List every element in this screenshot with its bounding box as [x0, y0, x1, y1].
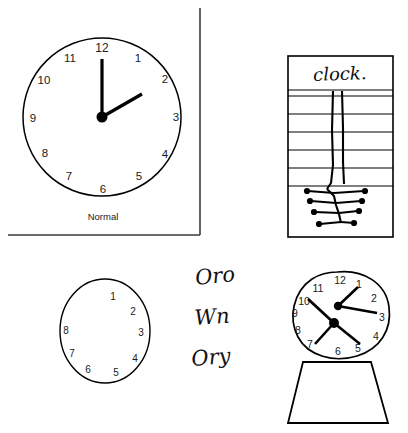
oval-clock-number-8: 8 [63, 325, 69, 336]
oval-clock-number-4: 4 [132, 353, 138, 364]
mantel-clock-base [288, 362, 388, 423]
mantel-number-11: 11 [313, 282, 324, 294]
oval-clock-number-3: 3 [138, 327, 144, 338]
scribble-line-3: Ory [190, 344, 232, 371]
scribble-line-2: Wn [194, 304, 231, 330]
mantel-number-3: 3 [379, 311, 385, 323]
panel-caption-normal: Normal [88, 211, 119, 222]
clock-word-panel: clock. [288, 56, 393, 237]
mantel-clock-hub-upper [334, 302, 342, 310]
oval-clock-number-7: 7 [69, 348, 75, 359]
clock-number-11: 11 [64, 52, 76, 64]
clock-number-2: 2 [162, 73, 168, 85]
clock-number-8: 8 [42, 147, 48, 159]
clock-number-6: 6 [100, 183, 106, 195]
mantel-clock-panel: 12 1 2 3 4 5 6 7 8 9 10 11 [288, 272, 389, 423]
oval-clock-face [60, 279, 150, 383]
clock-number-5: 5 [136, 170, 142, 182]
oval-clock-number-1: 1 [110, 291, 116, 302]
clock-number-9: 9 [30, 112, 36, 124]
mantel-number-8: 8 [295, 324, 301, 336]
normal-clock-panel: 12 1 2 3 4 5 6 7 8 9 10 11 Normal [23, 38, 181, 222]
figure-canvas: 12 1 2 3 4 5 6 7 8 9 10 11 Normal [0, 0, 408, 433]
mantel-number-9: 9 [292, 307, 298, 319]
mantel-number-2: 2 [371, 292, 377, 304]
clock-number-10: 10 [38, 74, 51, 86]
clock-number-3: 3 [173, 111, 179, 123]
oval-clock-number-2: 2 [130, 306, 136, 317]
clock-number-1: 1 [135, 52, 141, 64]
clock-number-7: 7 [66, 170, 72, 182]
mantel-number-7: 7 [307, 338, 313, 350]
clock-drawing-figure: 12 1 2 3 4 5 6 7 8 9 10 11 Normal [0, 0, 408, 433]
clock-number-12: 12 [95, 41, 109, 55]
mantel-number-12: 12 [334, 274, 346, 286]
mantel-number-6: 6 [335, 345, 341, 357]
mantel-clock-hub-lower [329, 318, 339, 328]
oval-clock-panel: 1 2 3 4 5 6 7 8 [60, 279, 150, 383]
scribble-line-1: Oro [194, 262, 236, 290]
oval-clock-number-5: 5 [113, 367, 119, 378]
clock-number-4: 4 [162, 148, 169, 160]
cursive-word-clock: clock. [313, 62, 367, 85]
oval-clock-number-6: 6 [85, 364, 91, 375]
cursive-scribble-panel: Oro Wn Ory [190, 262, 236, 371]
clock-hub [97, 112, 108, 123]
mantel-number-4: 4 [373, 330, 379, 342]
